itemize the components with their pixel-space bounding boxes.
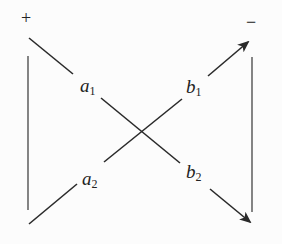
label-a1: a1 (80, 75, 96, 98)
svg-text:b1: b1 (186, 76, 202, 99)
edge-bottomleft-to-a2 (29, 184, 77, 224)
label-b1: b1 (186, 76, 202, 99)
minus-sign: − (246, 12, 256, 32)
label-b2-var: b (186, 161, 196, 182)
svg-text:a1: a1 (80, 75, 96, 98)
label-a2-sub: 2 (92, 177, 98, 191)
two-port-signal-flow-diagram: + − a1 a2 b1 b2 (0, 0, 282, 244)
edge-b1-arrow (208, 42, 248, 76)
label-a1-var: a (80, 75, 90, 96)
label-a2: a2 (82, 168, 98, 191)
label-b1-sub: 1 (196, 85, 202, 99)
label-a1-sub: 1 (90, 84, 96, 98)
label-b2-sub: 2 (196, 170, 202, 184)
edge-a2-to-b1 (104, 99, 182, 162)
plus-sign: + (21, 8, 31, 28)
svg-text:b2: b2 (186, 161, 202, 184)
edge-plus-to-a1 (29, 38, 73, 74)
edge-b2-arrow (210, 189, 250, 222)
label-b1-var: b (186, 76, 196, 97)
label-a2-var: a (82, 168, 92, 189)
label-b2: b2 (186, 161, 202, 184)
edge-a1-to-b2 (101, 98, 180, 163)
svg-text:a2: a2 (82, 168, 98, 191)
